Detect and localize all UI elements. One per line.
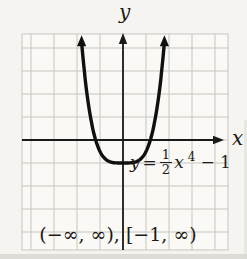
scan-shadow-right (244, 120, 247, 259)
scan-shadow-bottom (0, 254, 247, 259)
equation-constant-term: − 1 (200, 154, 230, 171)
y-axis-label: y (119, 1, 130, 23)
function-graph-figure: y x y = 1 2 x4 − 1 (−∞, ∞), [−1, ∞) (0, 0, 247, 259)
fraction-denominator: 2 (160, 162, 172, 177)
fraction-numerator: 1 (160, 148, 172, 162)
equation-label: y = 1 2 x4 − 1 (130, 148, 231, 178)
equation-lhs-variable: y (130, 154, 140, 171)
equation-fraction: 1 2 (160, 148, 172, 178)
domain-range-caption: (−∞, ∞), [−1, ∞) (15, 223, 221, 247)
domain-interval: (−∞, ∞), (39, 223, 120, 247)
grid-border (22, 34, 228, 250)
x-axis-label: x (232, 127, 243, 149)
range-interval: [−1, ∞) (126, 223, 197, 247)
equation-variable: x (174, 154, 184, 171)
equation-exponent: 4 (188, 151, 196, 163)
equation-equals-sign: = (143, 154, 157, 171)
graph-svg (0, 0, 247, 259)
